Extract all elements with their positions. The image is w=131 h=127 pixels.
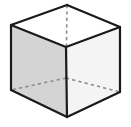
edge-front-vertical — [66, 47, 67, 117]
cube-diagram — [0, 0, 131, 127]
cube-figure-container — [0, 0, 131, 127]
